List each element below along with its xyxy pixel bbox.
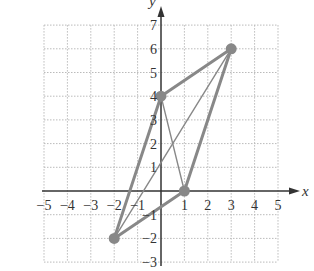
y-tick-label: 2 — [150, 137, 157, 152]
x-tick-label: −3 — [83, 198, 98, 213]
x-tick-label: 5 — [275, 198, 282, 213]
y-tick-label: 6 — [150, 42, 157, 57]
y-tick-label: 7 — [150, 18, 157, 33]
y-axis-arrow-icon — [158, 6, 165, 17]
y-tick-label: 1 — [150, 160, 157, 175]
y-axis-title: y — [147, 0, 156, 9]
y-tick-label: −3 — [142, 255, 157, 270]
x-axis-title: x — [301, 183, 309, 199]
x-tick-label: −2 — [107, 198, 122, 213]
coordinate-plane-chart: −5−4−3−2−112345−3−2−11234567xy — [0, 0, 314, 271]
x-tick-label: 3 — [228, 198, 235, 213]
y-tick-label: −2 — [142, 231, 157, 246]
tick-labels: −5−4−3−2−112345−3−2−11234567xy — [37, 0, 309, 270]
data-point — [179, 186, 190, 197]
shape-side — [161, 49, 231, 96]
x-tick-label: −4 — [60, 198, 75, 213]
x-tick-label: 2 — [204, 198, 211, 213]
x-tick-label: −5 — [37, 198, 52, 213]
y-tick-label: 4 — [150, 89, 157, 104]
data-point — [109, 233, 120, 244]
data-point — [156, 91, 167, 102]
x-axis-arrow-icon — [289, 188, 300, 195]
y-tick-label: 3 — [150, 113, 157, 128]
x-tick-label: 4 — [251, 198, 258, 213]
y-tick-label: 5 — [150, 66, 157, 81]
data-point — [226, 43, 237, 54]
x-tick-label: 1 — [181, 198, 188, 213]
y-tick-label: −1 — [142, 208, 157, 223]
